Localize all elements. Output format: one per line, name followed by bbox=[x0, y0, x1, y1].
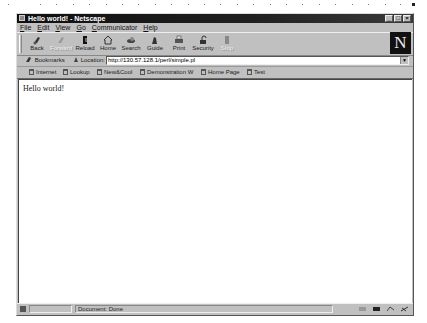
personal-item-lookup[interactable]: Lookup bbox=[63, 68, 90, 77]
search-button[interactable]: Search bbox=[120, 35, 142, 54]
menu-help[interactable]: Help bbox=[143, 23, 157, 32]
guide-icon bbox=[150, 35, 160, 45]
navigator-icon[interactable] bbox=[358, 306, 367, 312]
bookmark-link-icon bbox=[140, 69, 145, 75]
netscape-logo[interactable]: N bbox=[390, 32, 411, 54]
search-icon bbox=[126, 35, 136, 45]
menu-view[interactable]: View bbox=[55, 23, 70, 32]
reload-button[interactable]: Reload bbox=[74, 35, 96, 54]
bookmark-link-icon bbox=[247, 69, 252, 75]
forward-button[interactable]: Forward bbox=[50, 35, 72, 54]
stop-button[interactable]: Stop bbox=[216, 35, 238, 54]
bookmark-link-icon bbox=[201, 69, 206, 75]
forward-arrow-icon bbox=[56, 35, 66, 45]
back-arrow-icon bbox=[32, 35, 42, 45]
minimize-button[interactable]: _ bbox=[385, 15, 393, 22]
location-url-input[interactable]: http://130.57.128.1/perl/simple.pl ▼ bbox=[106, 56, 409, 65]
status-bar: Document: Done bbox=[17, 303, 413, 315]
guide-button[interactable]: Guide bbox=[144, 35, 166, 54]
progress-bar bbox=[29, 305, 72, 313]
back-button[interactable]: Back bbox=[26, 35, 48, 54]
personal-item-test[interactable]: Test bbox=[247, 68, 265, 77]
bookmark-folder-icon bbox=[63, 69, 68, 75]
home-button[interactable]: Home bbox=[97, 35, 119, 54]
composer-icon[interactable] bbox=[400, 306, 409, 312]
menu-edit[interactable]: Edit bbox=[37, 23, 49, 32]
discussion-icon[interactable] bbox=[386, 306, 395, 312]
bookmark-folder-icon bbox=[97, 69, 102, 75]
page-text: Hello world! bbox=[23, 84, 64, 93]
netscape-app-icon[interactable] bbox=[19, 15, 25, 21]
page-proxy-icon[interactable] bbox=[73, 56, 79, 63]
security-lock-icon bbox=[198, 35, 208, 45]
print-icon bbox=[174, 35, 184, 45]
close-button[interactable]: × bbox=[403, 15, 411, 22]
desktop-dot-pattern bbox=[0, 0, 427, 10]
location-label: Location: bbox=[73, 56, 105, 65]
menu-communicator[interactable]: Communicator bbox=[92, 23, 138, 32]
navigation-toolbar: Back Forward Reload Home Search Guide Pr… bbox=[17, 32, 413, 56]
title-bar[interactable]: Hello world! - Netscape _ □ × bbox=[17, 14, 413, 23]
personal-item-home-page[interactable]: Home Page bbox=[201, 68, 240, 77]
bookmark-folder-icon bbox=[29, 69, 34, 75]
maximize-button[interactable]: □ bbox=[394, 15, 402, 22]
security-status-icon[interactable] bbox=[20, 306, 26, 312]
status-text: Document: Done bbox=[75, 305, 333, 313]
home-icon bbox=[103, 35, 113, 45]
component-bar bbox=[335, 305, 409, 313]
netscape-window: Hello world! - Netscape _ □ × File Edit … bbox=[16, 13, 414, 316]
reload-icon bbox=[80, 35, 90, 45]
personal-item-demonstration[interactable]: Demonstration W bbox=[140, 68, 193, 77]
menu-bar: File Edit View Go Communicator Help bbox=[17, 23, 413, 32]
personal-item-newcool[interactable]: New&Cool bbox=[97, 68, 132, 77]
url-dropdown-button[interactable]: ▼ bbox=[400, 57, 408, 64]
toolbar-grip[interactable] bbox=[19, 35, 22, 53]
mail-icon[interactable] bbox=[372, 306, 381, 312]
security-button[interactable]: Security bbox=[192, 35, 214, 54]
location-toolbar: Bookmarks Location: http://130.57.128.1/… bbox=[17, 55, 413, 67]
menu-file[interactable]: File bbox=[20, 23, 31, 32]
print-button[interactable]: Print bbox=[168, 35, 190, 54]
bookmarks-button[interactable]: Bookmarks bbox=[25, 56, 65, 65]
personal-item-internet[interactable]: Internet bbox=[29, 68, 56, 77]
window-title: Hello world! - Netscape bbox=[28, 14, 105, 23]
menu-go[interactable]: Go bbox=[76, 23, 85, 32]
personal-toolbar: Internet Lookup New&Cool Demonstration W… bbox=[17, 67, 413, 79]
page-content[interactable]: Hello world! bbox=[18, 79, 412, 303]
bookmarks-icon bbox=[25, 56, 33, 63]
stop-icon bbox=[222, 35, 232, 45]
